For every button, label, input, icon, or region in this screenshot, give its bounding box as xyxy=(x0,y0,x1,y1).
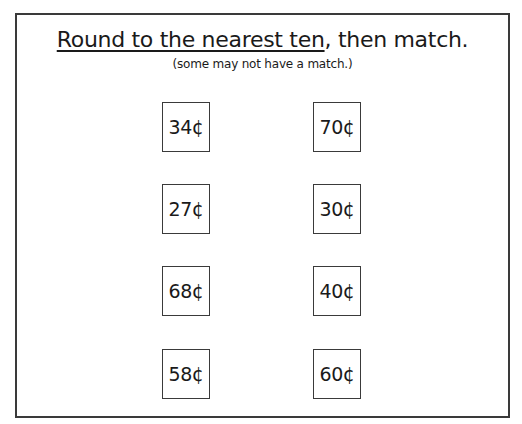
right-box-3[interactable]: 40¢ xyxy=(313,266,361,316)
worksheet: Round to the nearest ten, then match. (s… xyxy=(15,13,510,418)
left-box-2[interactable]: 27¢ xyxy=(162,184,210,234)
left-box-4[interactable]: 58¢ xyxy=(162,349,210,399)
title-rest: , then match. xyxy=(325,27,469,52)
left-box-1[interactable]: 34¢ xyxy=(162,102,210,152)
right-box-1[interactable]: 70¢ xyxy=(313,102,361,152)
right-box-2[interactable]: 30¢ xyxy=(313,184,361,234)
worksheet-title: Round to the nearest ten, then match. xyxy=(17,27,508,53)
worksheet-subtitle: (some may not have a match.) xyxy=(17,57,508,71)
title-underlined: Round to the nearest ten xyxy=(57,27,325,52)
right-box-4[interactable]: 60¢ xyxy=(313,349,361,399)
left-box-3[interactable]: 68¢ xyxy=(162,266,210,316)
